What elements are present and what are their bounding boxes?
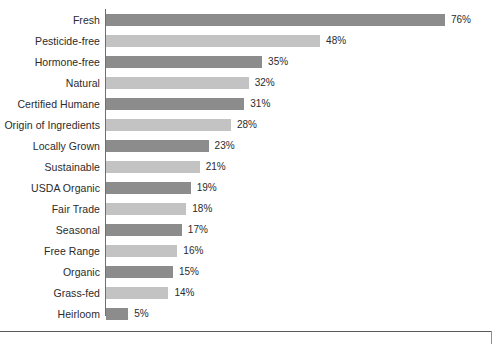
- bar-category-label: Organic: [0, 266, 100, 278]
- bar-row: Certified Humane31%: [0, 93, 492, 114]
- bar-row: USDA Organic19%: [0, 177, 492, 198]
- frame-bottom-rule: [0, 331, 492, 332]
- bar-fill: [106, 35, 320, 47]
- bar-track: 32%: [106, 77, 275, 89]
- bar-value-label: 16%: [183, 245, 203, 257]
- bar-track: 23%: [106, 140, 235, 152]
- bar-value-label: 21%: [206, 161, 226, 173]
- bar-category-label: Origin of Ingredients: [0, 119, 100, 131]
- bar-category-label: USDA Organic: [0, 182, 100, 194]
- bar-row: Locally Grown23%: [0, 135, 492, 156]
- bar-category-label: Grass-fed: [0, 287, 100, 299]
- bar-value-label: 15%: [179, 266, 199, 278]
- bar-track: 35%: [106, 56, 288, 68]
- bar-value-label: 28%: [237, 119, 257, 131]
- bar-row: Hormone-free35%: [0, 51, 492, 72]
- bar-value-label: 23%: [215, 140, 235, 152]
- bar-track: 48%: [106, 35, 346, 47]
- bar-row: Seasonal17%: [0, 219, 492, 240]
- bar-value-label: 19%: [197, 182, 217, 194]
- bar-track: 14%: [106, 287, 194, 299]
- bar-track: 19%: [106, 182, 217, 194]
- bar-row: Organic15%: [0, 261, 492, 282]
- bar-track: 76%: [106, 14, 471, 26]
- plot-area: Fresh76%Pesticide-free48%Hormone-free35%…: [0, 0, 492, 331]
- bar-track: 31%: [106, 98, 270, 110]
- bar-category-label: Natural: [0, 77, 100, 89]
- bar-row: Pesticide-free48%: [0, 30, 492, 51]
- bar-category-label: Pesticide-free: [0, 35, 100, 47]
- bar-fill: [106, 14, 445, 26]
- bar-fill: [106, 77, 249, 89]
- bar-fill: [106, 224, 182, 236]
- bar-fill: [106, 98, 244, 110]
- bar-fill: [106, 245, 177, 257]
- bar-category-label: Seasonal: [0, 224, 100, 236]
- bar-category-label: Hormone-free: [0, 56, 100, 68]
- bar-track: 5%: [106, 308, 149, 320]
- bar-fill: [106, 182, 191, 194]
- bar-category-label: Certified Humane: [0, 98, 100, 110]
- bar-track: 17%: [106, 224, 208, 236]
- bar-value-label: 5%: [134, 308, 148, 320]
- bar-value-label: 14%: [174, 287, 194, 299]
- bar-fill: [106, 266, 173, 278]
- bar-category-label: Locally Grown: [0, 140, 100, 152]
- bar-value-label: 35%: [268, 56, 288, 68]
- bar-row: Fair Trade18%: [0, 198, 492, 219]
- bar-row: Free Range16%: [0, 240, 492, 261]
- bar-value-label: 18%: [192, 203, 212, 215]
- bar-value-label: 17%: [188, 224, 208, 236]
- bar-row: Fresh76%: [0, 9, 492, 30]
- bar-track: 21%: [106, 161, 226, 173]
- bar-track: 15%: [106, 266, 199, 278]
- bar-category-label: Heirloom: [0, 308, 100, 320]
- bar-category-label: Sustainable: [0, 161, 100, 173]
- bar-fill: [106, 308, 128, 320]
- bar-row: Heirloom5%: [0, 303, 492, 324]
- bar-track: 28%: [106, 119, 257, 131]
- bar-value-label: 48%: [326, 35, 346, 47]
- bar-row: Sustainable21%: [0, 156, 492, 177]
- bar-track: 16%: [106, 245, 203, 257]
- bar-fill: [106, 140, 209, 152]
- bar-track: 18%: [106, 203, 212, 215]
- bar-fill: [106, 161, 200, 173]
- bar-chart: Fresh76%Pesticide-free48%Hormone-free35%…: [0, 0, 492, 344]
- bar-category-label: Fair Trade: [0, 203, 100, 215]
- bar-row: Natural32%: [0, 72, 492, 93]
- bar-fill: [106, 119, 231, 131]
- bar-category-label: Fresh: [0, 14, 100, 26]
- bar-value-label: 76%: [451, 14, 471, 26]
- bar-value-label: 31%: [250, 98, 270, 110]
- bar-fill: [106, 287, 168, 299]
- bar-row: Origin of Ingredients28%: [0, 114, 492, 135]
- bar-fill: [106, 203, 186, 215]
- bar-category-label: Free Range: [0, 245, 100, 257]
- bar-row: Grass-fed14%: [0, 282, 492, 303]
- bar-fill: [106, 56, 262, 68]
- bar-value-label: 32%: [255, 77, 275, 89]
